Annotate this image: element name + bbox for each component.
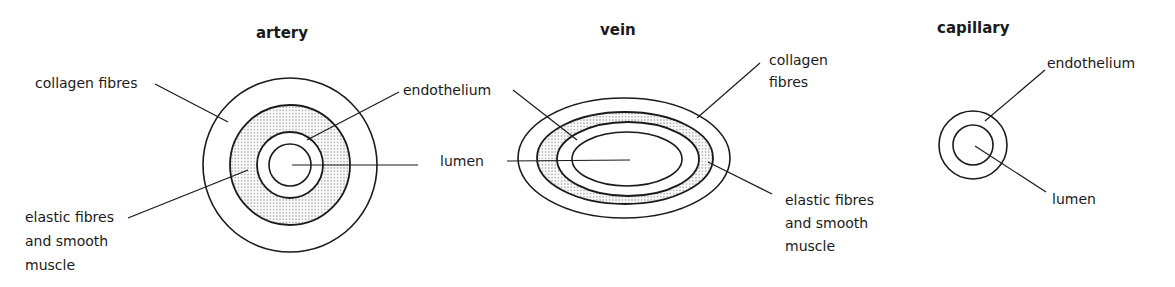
vein-collagen-pointer: [697, 63, 760, 118]
endothelium-label: endothelium: [403, 82, 491, 98]
artery-elastic-label-1: elastic fibres: [25, 209, 114, 225]
capillary-title: capillary: [937, 19, 1010, 37]
vein-endothelium-layer: [557, 122, 699, 196]
capillary-endothelium-label: endothelium: [1047, 55, 1135, 71]
vein-collagen-label-1: collagen: [769, 52, 828, 68]
artery-elastic-label-2: and smooth: [25, 233, 108, 249]
capillary-section: capillary endothelium lumen: [937, 19, 1135, 207]
blood-vessel-diagram: artery collagen fibres elastic fibres an…: [0, 0, 1175, 287]
vein-endothelium-pointer: [513, 90, 577, 140]
artery-collagen-label: collagen fibres: [35, 75, 138, 91]
artery-section: artery collagen fibres elastic fibres an…: [25, 24, 418, 273]
artery-elastic-label-3: muscle: [25, 257, 75, 273]
vein-elastic-label-1: elastic fibres: [785, 192, 874, 208]
capillary-lumen-label: lumen: [1052, 191, 1096, 207]
vein-collagen-label-2: fibres: [769, 74, 808, 90]
vein-elastic-label-2: and smooth: [785, 215, 868, 231]
vein-elastic-pointer: [708, 162, 772, 194]
artery-title: artery: [256, 24, 308, 42]
vein-section: vein collagen fibres elastic fibres and …: [507, 21, 874, 254]
capillary-endothelium-pointer: [985, 70, 1045, 121]
capillary-endothelium-layer: [939, 111, 1007, 179]
artery-collagen-pointer: [155, 84, 228, 122]
vein-elastic-label-3: muscle: [785, 238, 835, 254]
lumen-label: lumen: [440, 153, 484, 169]
capillary-lumen: [953, 125, 993, 165]
vein-title: vein: [600, 21, 636, 39]
capillary-lumen-pointer: [975, 146, 1046, 192]
artery-elastic-pointer: [128, 170, 248, 218]
